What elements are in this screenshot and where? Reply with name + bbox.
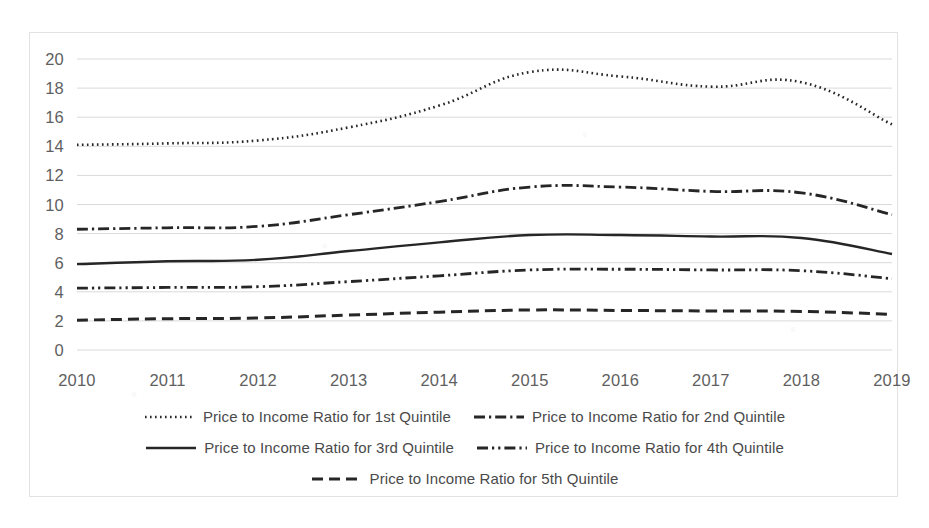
y-tick-label: 10 xyxy=(30,197,64,214)
series-line-1 xyxy=(77,70,892,145)
x-tick-label: 2010 xyxy=(37,372,117,389)
series-line-3 xyxy=(77,234,892,264)
y-tick-label: 4 xyxy=(30,284,64,301)
legend-row-1: Price to Income Ratio for 1st QuintilePr… xyxy=(30,401,899,432)
legend-label: Price to Income Ratio for 5th Quintile xyxy=(370,470,619,487)
x-tick-label: 2015 xyxy=(490,372,570,389)
y-tick-label: 14 xyxy=(30,138,64,155)
chart-container: 02468101214161820 2010201120122013201420… xyxy=(29,32,898,497)
legend-label: Price to Income Ratio for 1st Quintile xyxy=(203,408,451,425)
series-line-2 xyxy=(77,185,892,229)
legend-item-quintile-5[interactable]: Price to Income Ratio for 5th Quintile xyxy=(311,470,619,487)
x-tick-label: 2011 xyxy=(128,372,208,389)
chart-legend: Price to Income Ratio for 1st QuintilePr… xyxy=(30,401,899,494)
legend-row-3: Price to Income Ratio for 5th Quintile xyxy=(30,463,899,494)
y-tick-label: 8 xyxy=(30,226,64,243)
legend-item-quintile-2[interactable]: Price to Income Ratio for 2nd Quintile xyxy=(473,408,785,425)
x-tick-label: 2012 xyxy=(218,372,298,389)
legend-key-icon xyxy=(145,441,197,455)
x-tick-label: 2014 xyxy=(399,372,479,389)
y-tick-label: 2 xyxy=(30,313,64,330)
y-tick-label: 18 xyxy=(30,80,64,97)
x-tick-label: 2013 xyxy=(309,372,389,389)
x-tick-label: 2016 xyxy=(580,372,660,389)
y-tick-label: 12 xyxy=(30,167,64,184)
y-tick-label: 6 xyxy=(30,255,64,272)
y-tick-label: 20 xyxy=(30,51,64,68)
y-tick-label: 16 xyxy=(30,109,64,126)
legend-row-2: Price to Income Ratio for 3rd QuintilePr… xyxy=(30,432,899,463)
legend-label: Price to Income Ratio for 3rd Quintile xyxy=(204,439,454,456)
legend-key-icon xyxy=(473,410,525,424)
series-line-5 xyxy=(77,310,892,320)
legend-key-icon xyxy=(476,441,528,455)
x-tick-label: 2019 xyxy=(852,372,929,389)
series-lines xyxy=(77,70,892,321)
legend-label: Price to Income Ratio for 2nd Quintile xyxy=(532,408,785,425)
legend-item-quintile-4[interactable]: Price to Income Ratio for 4th Quintile xyxy=(476,439,784,456)
legend-key-icon xyxy=(144,410,196,424)
legend-label: Price to Income Ratio for 4th Quintile xyxy=(535,439,784,456)
x-tick-label: 2017 xyxy=(671,372,751,389)
legend-item-quintile-1[interactable]: Price to Income Ratio for 1st Quintile xyxy=(144,408,451,425)
legend-item-quintile-3[interactable]: Price to Income Ratio for 3rd Quintile xyxy=(145,439,454,456)
series-line-4 xyxy=(77,269,892,288)
y-tick-label: 0 xyxy=(30,342,64,359)
legend-key-icon xyxy=(311,472,363,486)
x-tick-label: 2018 xyxy=(761,372,841,389)
gridlines xyxy=(77,59,892,350)
